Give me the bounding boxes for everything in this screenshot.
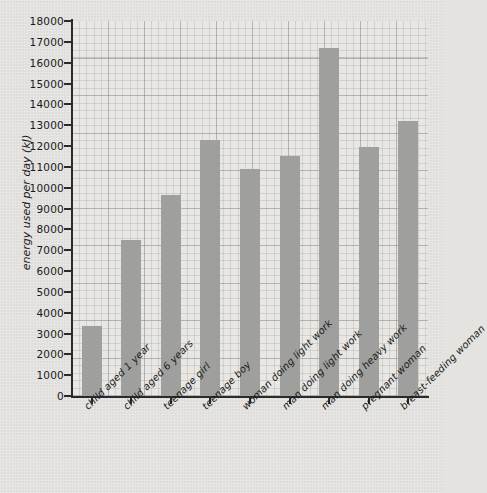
y-tick-mark [64,249,72,251]
y-tick-label: 5000 [36,286,64,298]
y-tick-label: 0 [57,390,64,402]
y-tick-mark [64,103,72,105]
y-tick-label: 10000 [30,182,64,194]
y-tick-label: 8000 [36,223,64,235]
y-tick-mark [64,187,72,189]
y-tick-mark [64,166,72,168]
y-tick-mark [64,395,72,397]
y-tick-label: 7000 [36,244,64,256]
y-tick-mark [64,83,72,85]
y-tick-label: 14000 [30,98,64,110]
y-tick-mark [64,333,72,335]
y-tick-label: 12000 [30,140,64,152]
y-tick-label: 1000 [36,369,64,381]
y-tick-label: 9000 [36,203,64,215]
y-tick-label: 13000 [30,119,64,131]
y-tick-label: 6000 [36,265,64,277]
y-tick-mark [64,228,72,230]
bar [319,48,339,396]
y-tick-label: 16000 [30,57,64,69]
bar [200,140,220,396]
y-tick-label: 4000 [36,307,64,319]
y-tick-mark [64,208,72,210]
y-tick-mark [64,291,72,293]
y-tick-mark [64,124,72,126]
y-tick-label: 18000 [30,15,64,27]
y-tick-mark [64,312,72,314]
y-tick-mark [64,145,72,147]
y-tick-mark [64,41,72,43]
y-tick-mark [64,270,72,272]
y-tick-label: 15000 [30,78,64,90]
y-tick-mark [64,20,72,22]
y-tick-mark [64,62,72,64]
y-tick-mark [64,353,72,355]
y-tick-mark [64,374,72,376]
y-axis-title: energy used per day (kJ) [20,103,33,303]
y-tick-label: 17000 [30,36,64,48]
y-tick-label: 11000 [30,161,64,173]
y-tick-label: 2000 [36,348,64,360]
y-tick-label: 3000 [36,328,64,340]
